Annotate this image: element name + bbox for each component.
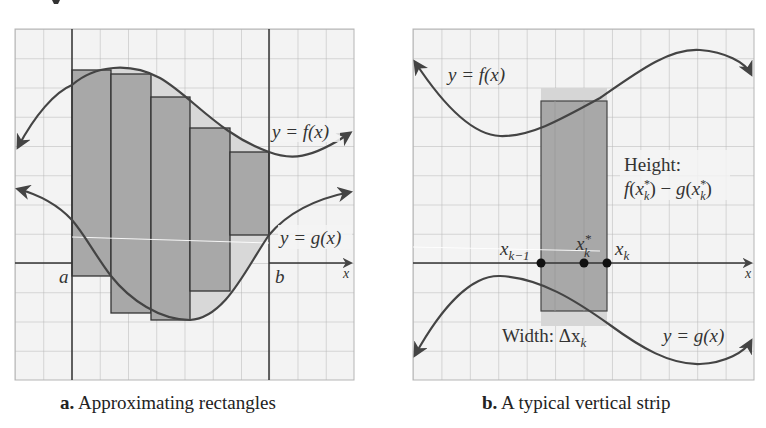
caption-a-text: Approximating rectangles: [78, 392, 276, 413]
label-b: b: [275, 266, 285, 287]
vertical-strip-rectangle: [541, 101, 607, 311]
point-x-k-minus-1: [537, 259, 546, 268]
caption-b: b. A typical vertical strip: [482, 392, 670, 414]
rectangle-3: [151, 97, 190, 320]
label-g-b: y = g(x): [661, 325, 724, 347]
label-a: a: [59, 266, 69, 287]
panel-a: y = f(x) y = g(x) a b x: [15, 29, 354, 380]
cropped-glyph-fragment: [52, 0, 60, 4]
rectangle-2: [111, 74, 151, 313]
height-label: Height:: [624, 154, 681, 175]
axis-label-x-b: x: [744, 266, 752, 281]
caption-b-letter: b.: [482, 392, 497, 413]
panel-b: y = f(x) Height: f(x*k) − g(x*k) xk−1 x*…: [413, 29, 754, 380]
label-g-a: y = g(x): [278, 227, 341, 249]
rectangle-1: [72, 70, 111, 276]
caption-a-letter: a.: [60, 392, 74, 413]
axis-label-x-a: x: [342, 266, 350, 281]
label-f-a: y = f(x): [270, 121, 329, 143]
label-f-b: y = f(x): [446, 64, 505, 86]
caption-a: a. Approximating rectangles: [60, 392, 276, 414]
rectangle-5: [230, 152, 269, 235]
rectangle-4: [190, 128, 230, 291]
point-x-k: [603, 259, 612, 268]
figure-canvas: y = f(x) y = g(x) a b x: [0, 0, 766, 428]
caption-b-text: A typical vertical strip: [501, 392, 670, 413]
